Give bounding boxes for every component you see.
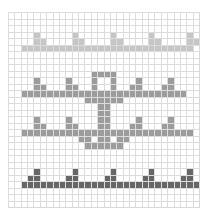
pattern-grid: [8, 12, 200, 208]
grid-cell-empty: [193, 201, 199, 208]
